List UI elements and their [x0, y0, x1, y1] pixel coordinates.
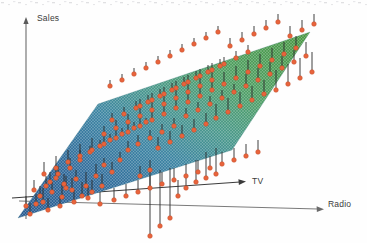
data-point-marker: [102, 163, 107, 168]
data-point-marker: [72, 200, 77, 205]
data-point-marker: [270, 58, 275, 63]
data-point-marker: [204, 36, 209, 41]
data-point-marker: [86, 196, 91, 201]
data-point-marker: [172, 124, 177, 129]
data-point-marker: [138, 124, 143, 129]
data-point-marker: [176, 194, 181, 199]
data-point-marker: [120, 132, 125, 137]
data-point-marker: [288, 34, 293, 39]
data-point-marker: [150, 118, 155, 123]
data-point-marker: [226, 110, 231, 115]
scan-grain-artifact: [0, 0, 367, 9]
data-point-marker: [110, 170, 115, 175]
data-point-marker: [148, 168, 153, 173]
data-point-marker: [184, 186, 189, 191]
data-point-marker: [198, 84, 203, 89]
data-point-marker: [148, 234, 153, 239]
data-point-marker: [160, 130, 165, 135]
data-point-marker: [182, 82, 187, 87]
data-point-marker: [184, 174, 189, 179]
data-point-marker: [162, 112, 167, 117]
data-point-marker: [54, 166, 59, 171]
data-point-marker: [126, 120, 131, 125]
data-point-marker: [244, 154, 249, 159]
data-point-marker: [144, 66, 149, 71]
data-point-marker: [220, 96, 225, 101]
data-point-marker: [68, 166, 73, 171]
data-point-marker: [258, 64, 263, 69]
data-point-marker: [180, 48, 185, 53]
data-point-marker: [80, 194, 85, 199]
data-point-marker: [312, 22, 317, 27]
data-point-marker: [218, 64, 223, 69]
data-point-marker: [174, 106, 179, 111]
data-point-marker: [216, 30, 221, 35]
data-point-marker: [102, 142, 107, 147]
data-point-marker: [192, 42, 197, 47]
data-point-marker: [110, 118, 115, 123]
data-point-marker: [252, 32, 257, 37]
data-point-marker: [292, 60, 297, 65]
data-point-marker: [222, 82, 227, 87]
data-point-marker: [156, 146, 161, 151]
data-point-marker: [194, 76, 199, 81]
data-point-marker: [138, 114, 143, 119]
data-point-marker: [208, 102, 213, 107]
data-point-marker: [148, 186, 153, 191]
data-point-marker: [214, 116, 219, 121]
data-point-marker: [180, 134, 185, 139]
data-point-marker: [62, 182, 67, 187]
data-point-marker: [232, 158, 237, 163]
data-point-marker: [136, 190, 141, 195]
data-point-marker: [184, 114, 189, 119]
data-point-marker: [240, 38, 245, 43]
data-point-marker: [246, 50, 251, 55]
data-point-marker: [112, 198, 117, 203]
data-point-marker: [174, 96, 179, 101]
data-point-marker: [100, 184, 105, 189]
data-point-marker: [232, 90, 237, 95]
data-point-marker: [310, 70, 315, 75]
data-point-marker: [108, 84, 113, 89]
axis-label-radio: Radio: [328, 199, 351, 209]
data-point-marker: [210, 88, 215, 93]
data-point-marker: [244, 84, 249, 89]
data-point-marker: [156, 60, 161, 65]
data-point-marker: [41, 200, 46, 205]
data-point-marker: [34, 202, 39, 207]
data-point-marker: [196, 108, 201, 113]
data-point-marker: [58, 204, 63, 209]
data-point-marker: [146, 100, 151, 105]
data-point-marker: [250, 98, 255, 103]
axis-label-sales: Sales: [37, 13, 59, 23]
data-point-marker: [168, 54, 173, 59]
data-point-marker: [132, 72, 137, 77]
data-point-marker: [276, 20, 281, 25]
data-point-marker: [24, 204, 29, 209]
data-point-marker: [262, 92, 267, 97]
data-point-marker: [246, 70, 251, 75]
data-point-marker: [90, 148, 95, 153]
data-point-marker: [70, 188, 75, 193]
data-point-marker: [32, 188, 37, 193]
data-point-marker: [136, 142, 141, 147]
data-point-marker: [280, 66, 285, 71]
data-point-marker: [208, 166, 213, 171]
data-point-marker: [114, 126, 119, 131]
data-point-marker: [120, 78, 125, 83]
data-point-marker: [286, 82, 291, 87]
data-point-marker: [114, 136, 119, 141]
data-point-marker: [108, 138, 113, 143]
data-point-marker: [48, 180, 53, 185]
data-point-marker: [300, 28, 305, 33]
data-point-marker: [158, 94, 163, 99]
data-point-marker: [44, 184, 49, 189]
data-point-marker: [126, 130, 131, 135]
data-point-marker: [256, 150, 261, 155]
figure-3d-regression-surface: Sales TV Radio: [0, 0, 367, 243]
data-point-marker: [50, 190, 55, 195]
data-point-marker: [282, 52, 287, 57]
data-point-marker: [138, 174, 143, 179]
data-point-marker: [234, 76, 239, 81]
data-point-marker: [228, 44, 233, 49]
